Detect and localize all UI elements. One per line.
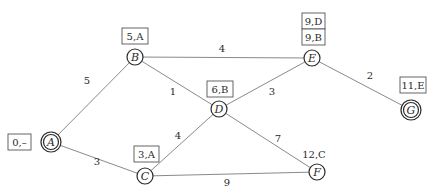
tag-a-text: 0,– — [12, 137, 27, 148]
edge-b-e — [135, 57, 312, 58]
weight-a-c: 3 — [94, 156, 100, 167]
node-f-label: F — [312, 166, 321, 179]
weight-d-e: 3 — [269, 86, 275, 97]
edges — [51, 57, 411, 176]
tag-a: 0,– — [8, 134, 31, 150]
node-e: E — [304, 50, 320, 66]
tag-e-text-bottom: 9,B — [305, 32, 322, 43]
weight-c-f: 9 — [224, 177, 230, 188]
weight-a-b: 5 — [84, 75, 90, 86]
tag-b-text: 5,A — [127, 31, 145, 42]
node-d-label: D — [214, 103, 224, 116]
edge-d-f — [219, 109, 317, 172]
edge-b-d — [135, 57, 219, 109]
tag-g-text: 11,E — [401, 80, 424, 91]
weight-c-d: 4 — [175, 130, 181, 141]
node-c-label: C — [141, 170, 150, 183]
node-d: D — [211, 101, 227, 117]
tag-b: 5,A — [122, 28, 148, 44]
weight-d-f: 7 — [275, 133, 281, 144]
tag-d-text: 6,B — [212, 84, 229, 95]
node-b: B — [127, 49, 143, 65]
node-g: G — [401, 100, 421, 120]
tag-f-text: 12,C — [302, 149, 326, 160]
weight-b-e: 4 — [219, 43, 225, 54]
weight-e-g: 2 — [367, 70, 373, 81]
tag-e: 9,D 9,B — [302, 13, 325, 45]
weight-b-d: 1 — [170, 86, 176, 97]
edge-c-d — [145, 109, 219, 176]
node-g-label: G — [407, 104, 416, 117]
node-e-label: E — [307, 52, 316, 65]
edge-e-g — [312, 58, 411, 110]
node-a-label: A — [46, 136, 55, 149]
edge-a-b — [51, 57, 135, 142]
tag-g: 11,E — [400, 77, 426, 93]
graph-diagram: 5 3 4 1 4 9 3 7 2 A B C D E F G — [0, 0, 434, 188]
tag-c: 3,A — [134, 146, 159, 162]
tag-e-text-top: 9,D — [305, 16, 323, 27]
tag-c-text: 3,A — [138, 149, 156, 160]
tag-f: 12,C — [302, 149, 326, 160]
edge-c-f — [145, 172, 317, 176]
node-a: A — [41, 132, 61, 152]
node-b-label: B — [130, 51, 139, 64]
node-c: C — [137, 168, 153, 184]
tag-d: 6,B — [207, 81, 233, 97]
node-f: F — [309, 164, 325, 180]
